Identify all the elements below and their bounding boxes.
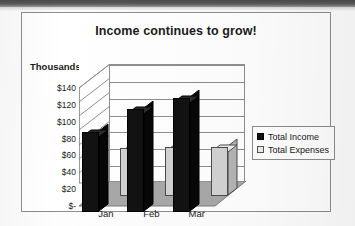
bar-series-container	[79, 64, 259, 206]
legend-label-total-income: Total Income	[268, 132, 319, 142]
y-tick-6: $20	[62, 185, 76, 194]
y-axis-tick-labels: $140$120$100$80$60$40$20$-	[29, 75, 76, 195]
light-square-icon	[257, 146, 264, 153]
chart-title: Income continues to grow!	[22, 24, 330, 38]
x-tick-mar: Mar	[177, 208, 217, 219]
y-tick-0: $140	[57, 84, 76, 93]
y-tick-3: $80	[62, 135, 76, 144]
bar-jan-income	[82, 132, 99, 212]
legend-item-total-income[interactable]: Total Income	[257, 130, 329, 143]
chart-legend: Total Income Total Expenses	[252, 126, 335, 160]
x-tick-feb: Feb	[131, 208, 171, 219]
y-tick-1: $120	[57, 101, 76, 110]
scan-artifact-band	[0, 0, 355, 7]
chart-screenshot: Income continues to grow! Thousands $140…	[0, 0, 355, 226]
y-tick-5: $40	[62, 168, 76, 177]
bar-mar-income	[173, 98, 190, 212]
scan-artifact-fade	[0, 7, 355, 11]
y-tick-4: $60	[62, 151, 76, 160]
y-tick-2: $100	[57, 118, 76, 127]
black-square-icon	[257, 133, 264, 140]
x-tick-jan: Jan	[86, 208, 126, 219]
bar-mar-expenses	[211, 147, 228, 196]
legend-item-total-expenses[interactable]: Total Expenses	[257, 143, 329, 156]
legend-label-total-expenses: Total Expenses	[268, 145, 329, 155]
chart-frame: Income continues to grow! Thousands $140…	[21, 12, 331, 212]
y-tick-7: $-	[68, 202, 76, 211]
bar-feb-income	[127, 109, 144, 212]
x-axis-tick-labels: JanFebMar	[84, 208, 274, 222]
